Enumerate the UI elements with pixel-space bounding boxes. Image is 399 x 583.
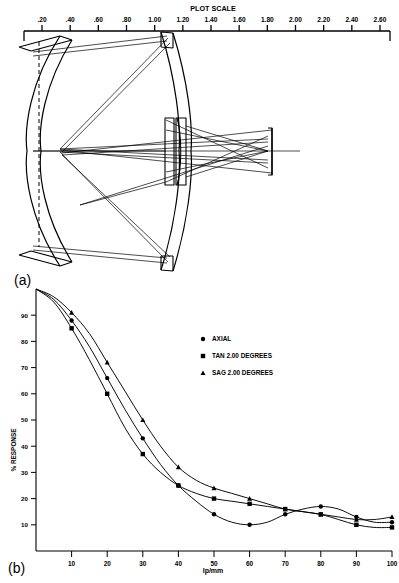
y-axis-title: % RESPONSE	[10, 428, 17, 472]
data-point-marker	[212, 496, 216, 500]
ruler-tick-label: .80	[122, 16, 131, 23]
series-circle	[36, 289, 394, 527]
x-axis-ticks: 102030405060708090100	[68, 551, 398, 567]
ruler-tick-label: .60	[94, 16, 103, 23]
plot-scale-ruler: PLOT SCALE .20.40.60.801.001.201.401.601…	[24, 4, 390, 41]
data-point-marker	[69, 326, 73, 330]
ruler-tick-label: .20	[37, 16, 46, 23]
data-point-marker	[319, 504, 323, 508]
x-tick-label: 60	[246, 560, 254, 567]
legend-marker-square	[201, 354, 205, 358]
x-tick-label: 20	[104, 560, 112, 567]
y-tick-label: 20	[21, 495, 28, 502]
chart-legend: AXIALTAN 2.00 DEGREESSAG 2.00 DEGREES	[201, 335, 274, 376]
plot-scale-title: PLOT SCALE	[190, 4, 236, 13]
ruler-tick-label: .40	[66, 16, 75, 23]
series-layer	[36, 289, 395, 530]
y-tick-label: 70	[21, 364, 28, 371]
legend-label-triangle: SAG 2.00 DEGREES	[212, 369, 274, 376]
data-point-marker	[283, 512, 287, 516]
data-point-marker	[354, 523, 358, 527]
data-point-marker	[176, 483, 180, 487]
x-tick-label: 40	[175, 560, 183, 567]
y-tick-label: 10	[21, 521, 28, 528]
data-point-marker	[247, 502, 251, 506]
legend-label-circle: AXIAL	[212, 335, 231, 342]
ray-bundle	[33, 36, 272, 263]
y-tick-label: 50	[21, 416, 28, 423]
series-line	[36, 289, 392, 520]
lens-layout-diagram	[19, 32, 300, 271]
series-square	[36, 289, 394, 530]
data-point-marker	[105, 392, 109, 396]
image-plane	[268, 128, 272, 175]
y-axis-ticks: 102030405060708090	[21, 312, 36, 529]
ruler-tick-label: 1.00	[148, 16, 161, 23]
x-tick-label: 80	[317, 560, 325, 567]
x-tick-label: 100	[387, 560, 398, 567]
ruler-tick-label: 1.60	[233, 16, 246, 23]
mtf-chart: 102030405060708090 102030405060708090100…	[10, 289, 398, 575]
series-line	[36, 289, 392, 528]
data-point-marker	[105, 376, 109, 380]
ruler-tick-label: 1.20	[176, 16, 189, 23]
legend-marker-triangle	[201, 370, 206, 375]
data-point-marker	[69, 318, 73, 322]
panel-b-label: (b)	[8, 560, 25, 576]
y-tick-label: 30	[21, 469, 28, 476]
data-point-marker	[141, 436, 145, 440]
corrector-lens-1	[165, 118, 174, 185]
data-point-marker	[390, 525, 394, 529]
ruler-ticks: .20.40.60.801.001.201.401.601.802.002.20…	[24, 16, 390, 41]
legend-marker-circle	[201, 337, 205, 341]
ruler-tick-label: 2.40	[345, 16, 358, 23]
y-tick-label: 60	[21, 390, 28, 397]
ruler-tick-label: 1.80	[261, 16, 274, 23]
data-point-marker	[212, 512, 216, 516]
ruler-tick-label: 1.40	[205, 16, 218, 23]
x-tick-label: 90	[353, 560, 361, 567]
y-tick-label: 40	[21, 443, 28, 450]
ruler-tick-label: 2.60	[374, 16, 387, 23]
ruler-tick-label: 2.20	[317, 16, 330, 23]
data-point-marker	[247, 523, 251, 527]
x-axis-title: lp/mm	[203, 567, 224, 575]
x-tick-label: 50	[210, 560, 218, 567]
ruler-tick-label: 2.00	[289, 16, 302, 23]
x-tick-label: 70	[282, 560, 290, 567]
y-tick-label: 90	[21, 312, 28, 319]
optical-design-figure: PLOT SCALE .20.40.60.801.001.201.401.601…	[0, 0, 399, 583]
data-point-marker	[141, 452, 145, 456]
x-tick-label: 30	[139, 560, 147, 567]
series-triangle	[36, 289, 395, 522]
data-point-marker	[390, 514, 395, 519]
y-tick-label: 80	[21, 338, 28, 345]
x-tick-label: 10	[68, 560, 76, 567]
legend-label-square: TAN 2.00 DEGREES	[212, 352, 273, 359]
panel-a-label: (a)	[14, 272, 31, 288]
data-point-marker	[105, 360, 110, 365]
data-point-marker	[390, 520, 394, 524]
